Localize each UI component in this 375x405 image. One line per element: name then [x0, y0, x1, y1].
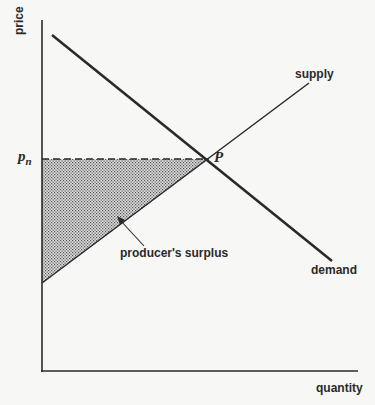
equilibrium-price-label: pn	[18, 148, 32, 167]
supply-demand-diagram	[0, 0, 375, 405]
y-axis-label: price	[12, 6, 26, 35]
diagram-canvas: price quantity supply demand producer's …	[0, 0, 375, 405]
demand-label: demand	[311, 263, 357, 277]
region-label: producer's surplus	[120, 246, 228, 260]
price-symbol: p	[18, 148, 26, 164]
price-subscript: n	[26, 155, 32, 167]
equilibrium-point-label: P	[214, 149, 223, 166]
x-axis-label: quantity	[316, 381, 363, 395]
annotation-arrow	[120, 220, 144, 246]
supply-label: supply	[295, 67, 334, 81]
